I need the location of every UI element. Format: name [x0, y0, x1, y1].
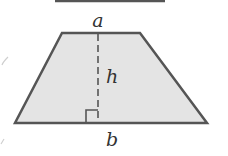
trapezoid-diagram: a h b	[0, 0, 228, 156]
page-artifact	[2, 57, 8, 65]
label-a: a	[92, 9, 103, 31]
label-h: h	[106, 65, 118, 87]
page-artifact	[1, 139, 4, 144]
label-b: b	[106, 128, 118, 150]
